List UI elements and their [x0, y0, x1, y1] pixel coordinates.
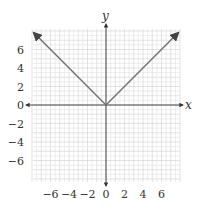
y-tick-label: 0 — [17, 99, 24, 112]
y-tick-label: −6 — [8, 155, 24, 168]
x-tick-label: −4 — [61, 188, 77, 201]
x-tick-label: 6 — [158, 188, 165, 201]
y-axis-label: y — [101, 9, 109, 23]
x-tick-label: −2 — [79, 188, 95, 201]
y-tick-label: 2 — [17, 81, 24, 94]
tick-labels: −6−4−202466420−2−4−6 — [8, 44, 165, 202]
graph-y-equals-abs-x: −6−4−202466420−2−4−6 x y — [0, 0, 204, 210]
x-tick-label: 4 — [140, 188, 147, 201]
y-tick-label: 4 — [17, 62, 24, 75]
y-tick-label: −2 — [8, 118, 24, 131]
x-tick-label: −6 — [42, 188, 58, 201]
y-tick-label: −4 — [8, 136, 24, 149]
x-tick-label: 2 — [121, 188, 128, 201]
x-axis-label: x — [185, 98, 192, 112]
y-tick-label: 6 — [17, 44, 24, 57]
x-tick-label: 0 — [103, 188, 110, 201]
